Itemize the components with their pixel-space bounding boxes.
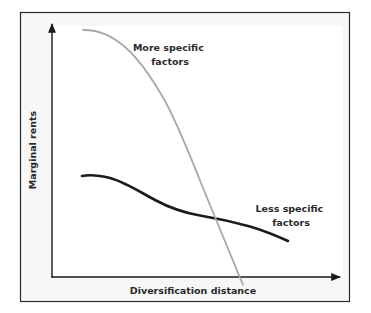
annotation-line: Less specific <box>256 203 324 214</box>
y-axis-label: Marginal rents <box>27 110 38 189</box>
chart: More specific factors Less specific fact… <box>0 0 371 313</box>
plot-area <box>53 26 343 276</box>
annotation-line: factors <box>151 56 189 67</box>
x-axis-label: Diversification distance <box>130 285 256 296</box>
annotation-line: More specific <box>133 42 204 53</box>
annotation-line: factors <box>272 217 310 228</box>
